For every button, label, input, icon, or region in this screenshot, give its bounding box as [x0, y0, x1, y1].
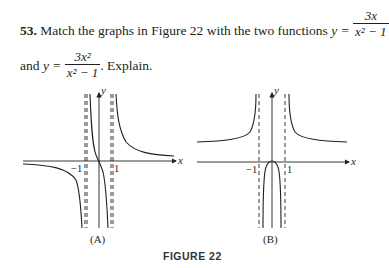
graph-b-y-label: y [274, 84, 279, 96]
graph-b-curve-left [197, 94, 256, 142]
graph-a-tick-1: 1 [114, 163, 119, 174]
graph-a-curve-right [116, 94, 174, 156]
graph-a-y-label: y [101, 84, 106, 96]
graph-b-x-label: x [351, 155, 356, 167]
graph-b-tick-neg1: −1 [246, 164, 257, 175]
graph-a-tick-neg1: −1 [71, 163, 82, 174]
graph-b-tick-1: 1 [287, 164, 292, 175]
graph-b-label: (B) [263, 233, 278, 245]
graph-b-curve-right [289, 94, 347, 142]
graph-a-label: (A) [90, 233, 105, 245]
graph-b [197, 93, 349, 228]
figure-caption: FIGURE 22 [163, 250, 222, 262]
graph-a-x-label: x [178, 154, 183, 166]
graph-a [23, 93, 176, 228]
